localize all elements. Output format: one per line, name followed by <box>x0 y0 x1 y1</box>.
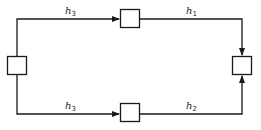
node-right <box>233 57 252 75</box>
node-bottom-middle <box>121 104 140 122</box>
edge-left-to-top-middle <box>17 19 119 56</box>
node-top-middle <box>121 10 140 28</box>
node-left <box>8 57 27 75</box>
label-top-left: h3 <box>65 5 76 18</box>
nodes <box>8 10 252 122</box>
flow-diagram: h3 h1 h3 h2 <box>0 0 261 130</box>
label-top-right: h1 <box>186 5 197 18</box>
edge-top-middle-to-right <box>140 19 242 55</box>
edges <box>17 19 242 114</box>
label-bottom-left: h3 <box>65 100 76 113</box>
label-bottom-right: h2 <box>186 100 197 113</box>
